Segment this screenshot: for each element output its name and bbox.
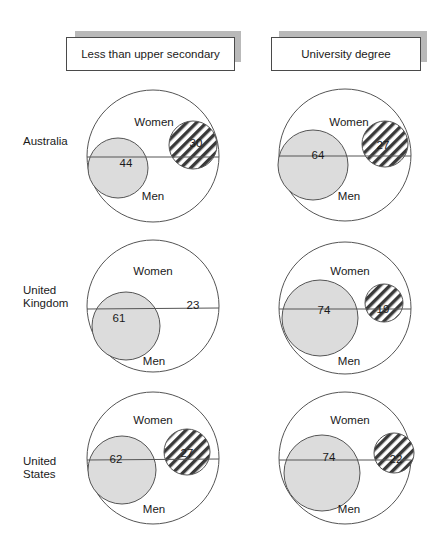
cell-united-states-university-degree: Women Men 74 22 <box>279 392 414 524</box>
men-label: Men <box>338 503 360 515</box>
gray-value: 64 <box>312 149 325 161</box>
women-label: Women <box>133 414 172 426</box>
gray-value: 74 <box>323 451 336 463</box>
women-label: Women <box>330 414 369 426</box>
cell-united-kingdom-less-than-upper-secondary: Women Men 61 23 <box>87 240 219 372</box>
men-label: Men <box>142 190 164 202</box>
hatched-value: 30 <box>190 137 203 149</box>
men-label: Men <box>338 190 360 202</box>
cell-united-states-less-than-upper-secondary: Women Men 62 27 <box>87 392 219 524</box>
men-label: Men <box>338 355 360 367</box>
gray-value: 74 <box>318 304 331 316</box>
gray-value: 61 <box>113 312 126 324</box>
cell-united-kingdom-university-degree: Women Men 74 19 <box>279 242 411 374</box>
hatched-value: 19 <box>377 303 390 315</box>
men-label: Men <box>143 503 165 515</box>
gray-value: 44 <box>120 157 133 169</box>
hatched-value: 23 <box>187 299 200 311</box>
hatched-value: 27 <box>181 447 194 459</box>
gray-value: 62 <box>110 453 123 465</box>
women-label: Women <box>330 265 369 277</box>
women-label: Women <box>134 116 173 128</box>
circle-diagram: Women Men 44 30 Women Men 64 27 Women Me… <box>0 0 442 550</box>
hatched-value: 27 <box>377 139 390 151</box>
women-label: Women <box>329 116 368 128</box>
women-label: Women <box>133 265 172 277</box>
hatched-value: 22 <box>390 453 403 465</box>
men-label: Men <box>143 355 165 367</box>
cell-australia-university-degree: Women Men 64 27 <box>278 89 411 221</box>
cell-australia-less-than-upper-secondary: Women Men 44 30 <box>87 90 219 222</box>
